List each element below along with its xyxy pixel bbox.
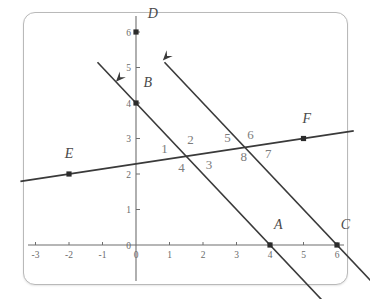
- point-label-A: A: [273, 217, 283, 232]
- y-tick-label-6: 6: [126, 28, 131, 38]
- point-label-B: B: [143, 75, 152, 90]
- axes-group: [28, 16, 344, 281]
- point-label-D: D: [147, 6, 158, 21]
- angle-label-8: 8: [241, 149, 248, 164]
- point-D: [133, 29, 138, 34]
- y-tick-label-4: 4: [126, 99, 131, 109]
- point-A: [267, 242, 272, 247]
- y-tick-label-0: 0: [126, 241, 131, 251]
- angle-label-1: 1: [161, 141, 168, 156]
- point-label-C: C: [341, 217, 351, 232]
- x-tick-label-0: 0: [134, 250, 139, 260]
- x-tick-label-2: 2: [201, 250, 206, 260]
- angle-label-7: 7: [265, 146, 272, 161]
- x-tick-label-5: 5: [301, 250, 306, 260]
- y-tick-label-3: 3: [126, 134, 131, 144]
- point-F: [301, 136, 306, 141]
- line-BA: [97, 62, 323, 299]
- arrowhead-line-DC: [163, 50, 173, 60]
- point-labels-group: ABCDEF: [64, 6, 351, 232]
- angle-label-6: 6: [247, 127, 254, 142]
- coordinate-graph: -3-2-101234560123456 ABCDEF 12345678: [0, 0, 370, 299]
- point-C: [334, 242, 339, 247]
- y-tick-label-2: 2: [126, 170, 131, 180]
- angle-label-5: 5: [224, 130, 231, 145]
- lines-group: [20, 62, 370, 299]
- point-label-F: F: [302, 111, 312, 126]
- x-tick-label-1: 1: [167, 250, 172, 260]
- y-tick-label-5: 5: [126, 63, 131, 73]
- x-tick-label--1: -1: [99, 250, 107, 260]
- x-tick-label--2: -2: [65, 250, 73, 260]
- y-tick-label-1: 1: [126, 205, 131, 215]
- figure-root: -3-2-101234560123456 ABCDEF 12345678: [0, 0, 370, 299]
- angle-label-4: 4: [178, 160, 185, 175]
- angle-label-2: 2: [187, 132, 194, 147]
- point-label-E: E: [64, 146, 74, 161]
- x-tick-label-3: 3: [234, 250, 239, 260]
- x-tick-label-4: 4: [268, 250, 273, 260]
- angle-label-3: 3: [206, 157, 213, 172]
- x-tick-label-6: 6: [335, 250, 340, 260]
- tick-labels-group: -3-2-101234560123456: [32, 28, 340, 261]
- x-tick-label--3: -3: [32, 250, 40, 260]
- line-DC: [164, 62, 370, 280]
- tick-marks-group: [36, 32, 338, 245]
- point-E: [66, 171, 71, 176]
- arrowhead-line-BA: [116, 72, 126, 82]
- point-B: [133, 100, 138, 105]
